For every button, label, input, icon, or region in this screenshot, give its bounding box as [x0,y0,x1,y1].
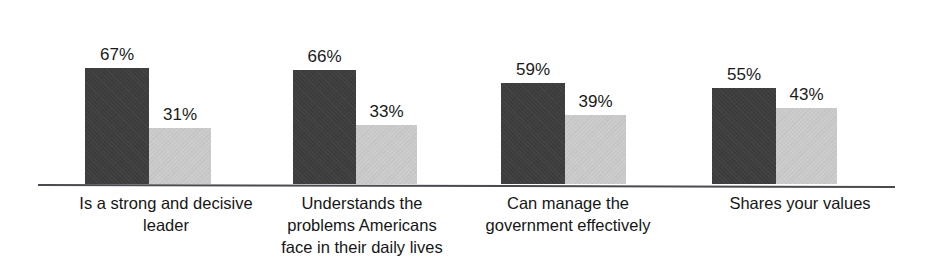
category-label-line: Can manage the [455,193,681,215]
baseline-axis [38,184,895,188]
category-label-understands-problems: Understands theproblems Americansface in… [248,193,476,258]
bar-manage-government-dark[interactable]: 59% [501,83,565,184]
category-label-line: Understands the [248,193,476,215]
bar-value-label: 33% [369,103,403,120]
category-label-line: face in their daily lives [248,237,476,259]
bar-understands-problems-light[interactable]: 33% [356,125,417,184]
bar-value-label: 39% [578,93,612,110]
bar-strong-decisive-leader-dark[interactable]: 67% [85,68,149,184]
bar-value-label: 55% [727,66,761,83]
bar-value-label: 31% [163,106,197,123]
bar-shares-your-values-dark[interactable]: 55% [712,88,776,184]
bar-value-label: 67% [100,46,134,63]
category-label-manage-government: Can manage thegovernment effectively [455,193,681,237]
bar-strong-decisive-leader-light[interactable]: 31% [149,128,211,184]
plot-area: 67%31%66%33%59%39%55%43% [0,0,935,187]
category-label-line: government effectively [455,215,681,237]
bar-understands-problems-dark[interactable]: 66% [293,70,356,184]
category-label-line: problems Americans [248,215,476,237]
category-label-shares-your-values: Shares your values [688,193,912,215]
bar-chart: 67%31%66%33%59%39%55%43% Is a strong and… [0,0,935,269]
bar-value-label: 66% [307,48,341,65]
category-label-line: Shares your values [688,193,912,215]
bar-manage-government-light[interactable]: 39% [565,115,626,184]
bar-shares-your-values-light[interactable]: 43% [776,108,837,184]
bar-value-label: 59% [516,61,550,78]
bar-value-label: 43% [789,86,823,103]
